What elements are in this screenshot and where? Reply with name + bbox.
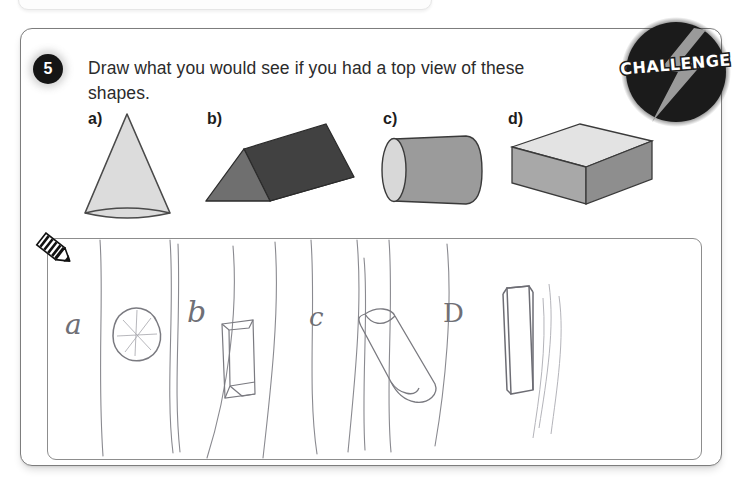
svg-text:c: c [309, 302, 324, 332]
handwritten-answer-c [359, 309, 436, 402]
question-text: Draw what you would see if you had a top… [88, 56, 588, 106]
handwritten-label-d: D [443, 298, 464, 328]
handwritten-label-c: c [309, 302, 324, 332]
svg-text:b: b [187, 294, 206, 329]
handwritten-answer-d [503, 286, 533, 394]
top-strip-dots: · · · · · · [140, 0, 340, 4]
handwritten-answer-b [222, 320, 255, 398]
handwriting-layer: a b c D [47, 238, 702, 460]
svg-text:a: a [65, 308, 82, 341]
handwritten-label-a: a [65, 308, 82, 341]
pencil-icon [32, 232, 76, 272]
handwritten-answer-a [113, 308, 161, 361]
challenge-badge: CHALLENGE [616, 14, 736, 134]
shape-label-d: d) [508, 110, 523, 128]
shape-label-b: b) [207, 110, 222, 128]
shape-label-c: c) [383, 110, 397, 128]
handwritten-label-b: b [187, 294, 206, 329]
svg-text:D: D [443, 298, 464, 328]
shape-label-a: a) [88, 110, 102, 128]
question-number-badge: 5 [33, 54, 63, 84]
